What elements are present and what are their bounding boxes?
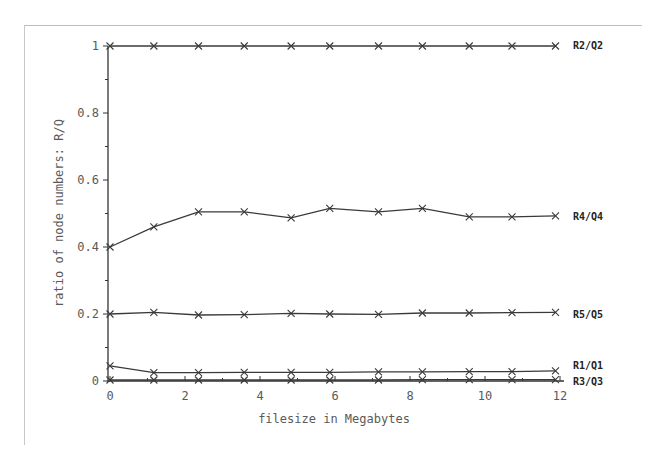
- series-label: R3/Q3: [573, 376, 603, 387]
- x-tick-label: 0: [106, 389, 113, 403]
- y-axis-label: ratio of node numbers: R/Q: [52, 119, 66, 307]
- series-r5-q5: [107, 309, 560, 319]
- series-r1-q1: [107, 362, 560, 376]
- series-labels: R2/Q2R4/Q4R5/Q5R1/Q1R3/Q3: [573, 40, 603, 387]
- axes: 00.20.40.60.81024681012: [77, 39, 567, 403]
- series-group: [107, 43, 560, 384]
- series-r2-q2: [107, 43, 560, 50]
- x-tick-label: 10: [478, 389, 492, 403]
- y-tick-label: 0.4: [77, 240, 99, 254]
- y-tick-label: 0.8: [77, 106, 99, 120]
- y-tick-label: 0: [92, 374, 99, 388]
- x-marker: [150, 223, 157, 230]
- y-tick-label: 0.2: [77, 307, 99, 321]
- x-tick-label: 2: [181, 389, 188, 403]
- y-tick-label: 0.6: [77, 173, 99, 187]
- series-label: R5/Q5: [573, 309, 603, 320]
- line-chart: 00.20.40.60.81024681012 R2/Q2R4/Q4R5/Q5R…: [0, 0, 656, 459]
- x-tick-label: 4: [256, 389, 263, 403]
- x-tick-label: 6: [331, 389, 338, 403]
- x-axis-label: filesize in Megabytes: [258, 412, 410, 426]
- x-tick-label: 12: [553, 389, 567, 403]
- x-tick-label: 8: [406, 389, 413, 403]
- series-label: R2/Q2: [573, 40, 603, 51]
- series-label: R4/Q4: [573, 211, 603, 222]
- y-tick-label: 1: [92, 39, 99, 53]
- series-label: R1/Q1: [573, 360, 603, 371]
- series-r3-q3: [107, 376, 560, 383]
- series-r4-q4: [107, 205, 560, 251]
